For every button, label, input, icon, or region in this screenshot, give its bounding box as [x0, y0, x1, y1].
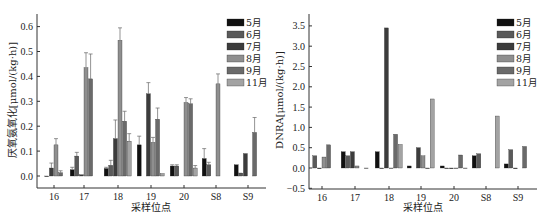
bar [184, 103, 188, 176]
bar [341, 152, 345, 168]
bar [146, 94, 150, 176]
x-tick-label: 19 [146, 191, 156, 202]
bar [350, 152, 354, 168]
x-tick-label: S9 [243, 191, 254, 202]
bar [89, 79, 93, 176]
dnra-chart: −0.50.00.51.01.52.02.53.03.5 1617181920S… [274, 14, 538, 213]
bar [239, 173, 243, 176]
legend-swatch [497, 31, 514, 38]
bar [454, 168, 458, 169]
bar [193, 168, 197, 176]
bar [416, 148, 420, 168]
x-tick-label: S8 [211, 191, 222, 202]
x-tick-label: 16 [49, 191, 59, 202]
bar [430, 99, 434, 168]
x-tick-label: 16 [317, 192, 327, 203]
bar [523, 146, 527, 168]
y-tick-label: 0.2 [21, 121, 34, 132]
bar [509, 150, 513, 168]
bar [317, 168, 321, 169]
bar [137, 145, 141, 176]
legend-item: 11月 [497, 77, 538, 88]
y-tick-label: 1.5 [293, 102, 306, 113]
x-tick-label: 20 [449, 192, 459, 203]
y-tick-label: −0.5 [287, 183, 305, 194]
x-tick-label: S8 [481, 192, 492, 203]
legend-item: 6月 [227, 29, 262, 40]
bar [463, 168, 467, 169]
right-x-axis-label: 采样位点 [403, 201, 443, 213]
x-tick-label: 17 [79, 191, 89, 202]
legend-item: 7月 [227, 41, 262, 52]
bar [253, 132, 257, 176]
bar [109, 165, 113, 176]
legend-label: 7月 [516, 41, 532, 52]
legend-item: 5月 [497, 17, 532, 28]
bar [170, 166, 174, 176]
legend-label: 9月 [516, 65, 532, 76]
right-legend: 5月6月7月8月9月11月 [497, 17, 538, 88]
y-tick-label: 3.5 [293, 20, 306, 31]
figure: 0.00.10.20.30.40.50.6 1617181920S8S9 采样位… [0, 0, 543, 224]
legend-item: 11月 [227, 77, 268, 88]
bar [346, 156, 350, 168]
bar [495, 116, 499, 168]
y-tick-label: 0.4 [21, 71, 34, 82]
bar [75, 156, 79, 176]
bar [127, 141, 131, 176]
anammox-chart: 0.00.10.20.30.40.50.6 1617181920S8S9 采样位… [6, 14, 268, 213]
bar [123, 121, 127, 176]
bar [175, 166, 179, 176]
bar [327, 145, 331, 168]
bar [118, 40, 122, 176]
y-tick-label: 0.5 [21, 46, 34, 57]
legend-swatch [497, 67, 514, 74]
legend-label: 8月 [246, 53, 262, 64]
bar [384, 28, 388, 168]
bar [394, 134, 398, 168]
bar [389, 168, 393, 169]
legend-item: 7月 [497, 41, 532, 52]
bar [59, 173, 63, 176]
bar [513, 168, 517, 169]
left-x-axis-label: 采样位点 [131, 201, 171, 213]
bar [440, 166, 444, 168]
legend-label: 6月 [516, 29, 532, 40]
legend-item: 9月 [497, 65, 532, 76]
right-y-axis-label: DNRA[μmol/(kg·h)] [274, 51, 285, 149]
bar [207, 165, 211, 176]
bar [104, 169, 108, 176]
bar [216, 84, 220, 176]
bar [459, 155, 463, 168]
bar [156, 119, 160, 176]
x-tick-label: 18 [113, 191, 123, 202]
bar [504, 164, 508, 168]
bar [355, 166, 359, 168]
legend-label: 8月 [516, 53, 532, 64]
legend-swatch [227, 55, 244, 62]
bar [426, 168, 430, 169]
y-tick-label: 1.0 [293, 122, 306, 133]
bar [477, 154, 481, 168]
legend-item: 5月 [227, 17, 262, 28]
legend-swatch [497, 19, 514, 26]
bar [49, 168, 53, 176]
bar [380, 168, 384, 169]
legend-swatch [227, 19, 244, 26]
legend-swatch [227, 43, 244, 50]
bar [113, 139, 117, 176]
left-legend: 5月6月7月8月9月11月 [227, 17, 268, 88]
legend-label: 11月 [246, 77, 268, 88]
y-tick-label: 2.0 [293, 81, 306, 92]
legend-swatch [227, 31, 244, 38]
bar [79, 175, 83, 176]
y-tick-label: 0.3 [21, 96, 34, 107]
bar [445, 168, 449, 169]
bar [472, 156, 476, 168]
bar [398, 144, 402, 168]
x-tick-label: S9 [513, 192, 524, 203]
bar [449, 168, 453, 169]
bar [54, 145, 58, 176]
y-tick-label: 0.0 [21, 171, 34, 182]
bar [313, 156, 317, 168]
